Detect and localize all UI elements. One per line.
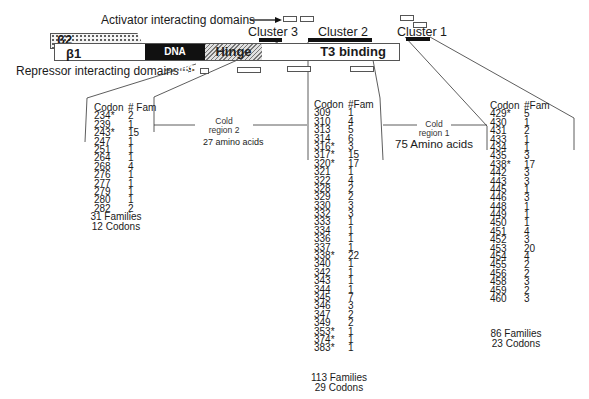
cold-region-1-length: 75 Amino acids [395, 138, 473, 150]
cold-region-2-length: 27 amino acids [203, 137, 264, 147]
codon-cell: 460 [490, 295, 524, 303]
cluster-1-codons: 23 Codons [486, 339, 546, 349]
activator-domain-box [300, 16, 314, 22]
hinge-domain: Hinge [205, 44, 262, 60]
cluster-1-bar [406, 37, 430, 41]
cluster-2-summary: 113 Families 29 Codons [309, 373, 369, 393]
table-row: 383*1 [314, 344, 374, 352]
cold-region-2-label: Cold region 2 [198, 117, 250, 135]
cluster-2-codons: 29 Codons [309, 383, 369, 393]
cluster-1-summary: 86 Families 23 Codons [486, 329, 546, 349]
table-row: 4603 [490, 295, 550, 303]
fam-count-cell: 3 [524, 295, 530, 303]
cold-region-1-line2: region 1 [417, 129, 451, 138]
t3-binding-domain: T3 binding [308, 44, 398, 60]
repressor-domain-box [287, 66, 311, 72]
cluster-3-bar [259, 38, 282, 42]
cluster-1-table: Codon#Fam429*543014312433143414353438*17… [490, 102, 550, 303]
repressor-domain-box [200, 68, 209, 74]
cluster-2-bar [308, 38, 372, 42]
activator-label: Activator interacting domains [101, 13, 255, 27]
cold-region-2-line2: region 2 [198, 126, 250, 135]
cold-region-1-label: Cold region 1 [417, 120, 451, 138]
repressor-label: Repressor interacting domains [16, 64, 179, 78]
activator-domain-box [400, 15, 414, 21]
beta1-label: β1 [66, 46, 81, 61]
cluster-3-codons: 12 Codons [86, 222, 146, 232]
activator-domain-box [283, 16, 297, 22]
cluster-3-label: Cluster 3 [248, 25, 298, 39]
dna-binding-domain: DNA binding [145, 44, 205, 60]
cluster-3-summary: 31 Families 12 Codons [86, 212, 146, 232]
cluster-3-table: Codon# Fam234*22391243*15247125112641268… [94, 104, 156, 213]
fam-count-cell: 1 [348, 344, 354, 352]
repressor-domain-box [350, 66, 374, 72]
repressor-domain-box [237, 67, 261, 73]
cluster-2-label: Cluster 2 [318, 25, 368, 39]
cluster-2-table: Codon#Fam3091310431353146316*3317*15320*… [314, 101, 374, 353]
codon-cell: 383* [314, 344, 348, 352]
